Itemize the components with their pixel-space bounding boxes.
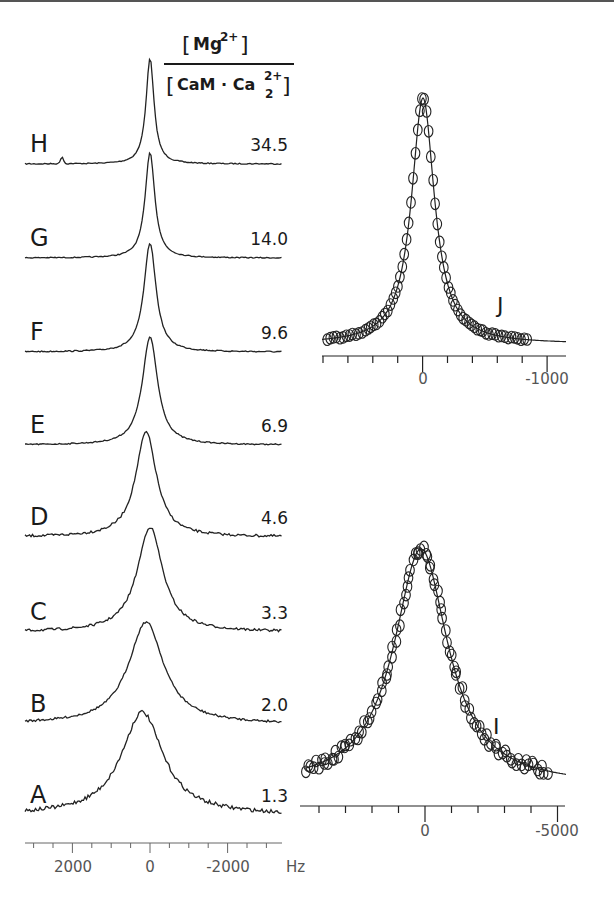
i-tick-label-minus-5000: -5000 (535, 822, 579, 840)
left-x-axis (25, 843, 282, 853)
ratio-value-f: 9.6 (261, 323, 288, 343)
denominator-sub: 2 (265, 87, 273, 101)
left-tick-label-minus-2000: -2000 (206, 858, 250, 876)
left-tick-label-2000: 2000 (54, 858, 92, 876)
numerator-base: Mg (193, 34, 222, 54)
numerator-close-bracket: ] (240, 32, 249, 57)
spectrum-trace-a (25, 711, 282, 814)
trace-label-g: G (30, 224, 49, 252)
trace-label-f: F (30, 318, 44, 346)
panel-j-label: J (495, 293, 504, 318)
j-tick-label-0: 0 (418, 370, 428, 388)
spectrum-trace-f (25, 244, 282, 352)
trace-label-d: D (30, 503, 48, 531)
ratio-value-d: 4.6 (261, 508, 288, 528)
stacked-spectra (25, 59, 282, 813)
ratio-value-c: 3.3 (261, 603, 288, 623)
panel-i-label: I (493, 714, 500, 739)
i-tick-label-0: 0 (420, 822, 430, 840)
trace-label-a: A (30, 781, 47, 809)
spectrum-trace-c (25, 528, 282, 631)
trace-labels: H34.5G14.0F9.6E6.9D4.6C3.3B2.0A1.3 (30, 130, 288, 809)
spectrum-trace-b (25, 622, 282, 723)
trace-label-h: H (30, 130, 48, 158)
panel-j (322, 93, 566, 372)
left-tick-label-0: 0 (145, 858, 155, 876)
spectrum-trace-d (25, 432, 282, 537)
spectrum-trace-g (25, 153, 282, 258)
denominator-base: CaM · Ca (177, 75, 255, 94)
denominator-close-bracket: ] (282, 73, 291, 98)
panel-i-fit-line (305, 549, 566, 774)
denominator-open-bracket: [ (166, 73, 175, 98)
j-tick-label-minus-1000: -1000 (525, 370, 569, 388)
panel-i (300, 541, 566, 822)
trace-label-c: C (30, 598, 47, 626)
numerator-sup: 2+ (220, 30, 238, 44)
numerator-open-bracket: [ (182, 32, 191, 57)
ratio-value-a: 1.3 (261, 786, 288, 806)
x-unit-label: Hz (286, 858, 305, 876)
ratio-header: [ Mg 2+ ] [ CaM · Ca 2+ 2 ] (164, 30, 294, 101)
trace-label-e: E (30, 411, 45, 439)
ratio-value-g: 14.0 (250, 229, 288, 249)
ratio-value-h: 34.5 (250, 135, 288, 155)
panel-j-fit-line (322, 98, 566, 342)
trace-label-b: B (30, 690, 46, 718)
ratio-value-b: 2.0 (261, 695, 288, 715)
ratio-value-e: 6.9 (261, 416, 288, 436)
figure-canvas: [ Mg 2+ ] [ CaM · Ca 2+ 2 ] H34.5G14.0F9… (0, 0, 614, 897)
denominator-sup: 2+ (264, 69, 282, 83)
spectrum-trace-e (25, 337, 282, 445)
panel-i-data-point (365, 713, 374, 725)
